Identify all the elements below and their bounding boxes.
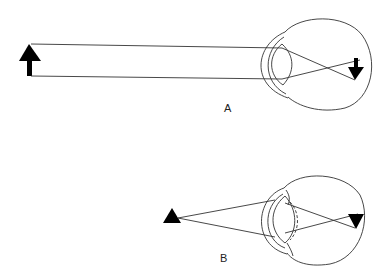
object-triangle-icon	[163, 208, 181, 223]
accommodation-diagram: A B	[0, 0, 385, 276]
panel-b-label: B	[220, 252, 227, 264]
panel-b	[163, 176, 365, 265]
panel-a-label: A	[224, 102, 232, 114]
object-arrow-up-icon	[19, 44, 41, 61]
panel-a	[19, 19, 372, 110]
